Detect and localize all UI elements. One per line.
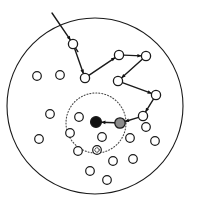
sensor-node-12 — [103, 176, 112, 185]
event-source-layer — [93, 146, 102, 155]
hop-2-node — [80, 73, 89, 82]
hop-3-node — [114, 50, 123, 59]
hop-1-node — [68, 39, 77, 48]
sensing-field-boundary — [7, 18, 183, 194]
sensor-node-5 — [75, 113, 84, 122]
hop-4-node — [141, 51, 150, 60]
itinerary-edge-1 — [75, 48, 84, 73]
sensor-node-13 — [151, 137, 160, 146]
sensor-node-10 — [129, 155, 138, 164]
sensor-node-7 — [74, 147, 83, 156]
sink-node-node — [91, 117, 102, 128]
event-source-node — [93, 146, 102, 155]
figure-root — [0, 0, 198, 208]
sensor-node-4 — [35, 135, 44, 144]
arrow-icon-1 — [80, 69, 83, 73]
sensor-node-6 — [98, 133, 107, 142]
mobile-agent-node — [115, 118, 125, 128]
sensor-node-14 — [142, 123, 151, 132]
sensor-node-3 — [46, 110, 55, 119]
itinerary-edge-2 — [89, 58, 115, 76]
network-diagram — [0, 0, 198, 208]
hop-7-node — [138, 111, 147, 120]
hop-6-node — [151, 90, 160, 99]
arrow-icon-5 — [147, 90, 151, 93]
sensor-node-2 — [56, 71, 65, 80]
sensor-node-15 — [126, 134, 135, 143]
sensor-node-9 — [109, 157, 118, 166]
itinerary-edge-4 — [121, 59, 142, 78]
itinerary-edge-5 — [122, 83, 151, 94]
sensor-node-11 — [86, 167, 95, 176]
hop-5-node — [113, 76, 122, 85]
sensor-node-8 — [66, 129, 75, 138]
incoming-dispatch-line — [52, 13, 71, 40]
sensor-node-1 — [33, 72, 42, 81]
